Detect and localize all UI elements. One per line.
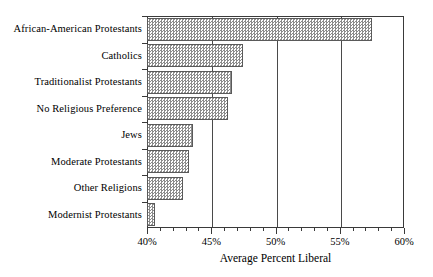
- bar-african-american-protestants[interactable]: [147, 18, 372, 41]
- y-tick: [142, 43, 147, 44]
- y-tick: [142, 202, 147, 203]
- category-labels: African-American Protestants Catholics T…: [0, 16, 142, 228]
- bar-catholics[interactable]: [147, 44, 243, 67]
- x-tick-minor: [327, 228, 328, 231]
- x-tick-major: [340, 228, 341, 234]
- category-label-7: Modernist Protestants: [0, 209, 142, 220]
- y-tick: [142, 149, 147, 150]
- x-tick-major: [404, 228, 405, 234]
- x-axis-title: Average Percent Liberal: [147, 252, 404, 265]
- bar-moderate-protestants[interactable]: [147, 150, 189, 173]
- x-tick-minor: [288, 228, 289, 231]
- xtick-label-2: 50%: [266, 236, 285, 248]
- x-tick-major: [211, 228, 212, 234]
- y-tick: [142, 175, 147, 176]
- x-tick-minor: [314, 228, 315, 231]
- bar-traditionalist-protestants[interactable]: [147, 71, 232, 94]
- x-tick-minor: [353, 228, 354, 231]
- xtick-label-1: 45%: [202, 236, 221, 248]
- x-tick-minor: [378, 228, 379, 231]
- y-tick: [142, 16, 147, 17]
- category-label-1: Catholics: [0, 50, 142, 61]
- bar-chart: African-American Protestants Catholics T…: [0, 0, 433, 277]
- category-label-6: Other Religions: [0, 182, 142, 193]
- x-tick-major: [147, 228, 148, 234]
- x-tick-minor: [391, 228, 392, 231]
- y-tick: [142, 122, 147, 123]
- category-label-2: Traditionalist Protestants: [0, 76, 142, 87]
- bar-jews[interactable]: [147, 124, 193, 147]
- x-tick-minor: [250, 228, 251, 231]
- x-tick-minor: [186, 228, 187, 231]
- bar-other-religions[interactable]: [147, 177, 183, 200]
- y-tick: [142, 96, 147, 97]
- x-tick-minor: [365, 228, 366, 231]
- xtick-label-3: 55%: [330, 236, 349, 248]
- x-tick-minor: [173, 228, 174, 231]
- category-label-0: African-American Protestants: [0, 23, 142, 34]
- x-tick-minor: [160, 228, 161, 231]
- bar-modernist-protestants[interactable]: [147, 203, 155, 226]
- x-tick-minor: [237, 228, 238, 231]
- x-tick-major: [276, 228, 277, 234]
- category-label-4: Jews: [0, 129, 142, 140]
- x-tick-minor: [263, 228, 264, 231]
- x-axis-ticks: [147, 228, 404, 236]
- category-label-5: Moderate Protestants: [0, 156, 142, 167]
- y-tick: [142, 69, 147, 70]
- x-tick-minor: [224, 228, 225, 231]
- x-tick-minor: [301, 228, 302, 231]
- xtick-label-0: 40%: [137, 236, 156, 248]
- bars: [147, 16, 404, 228]
- category-label-3: No Religious Preference: [0, 103, 142, 114]
- bar-no-religious-preference[interactable]: [147, 97, 228, 120]
- x-tick-minor: [198, 228, 199, 231]
- xtick-label-4: 60%: [394, 236, 413, 248]
